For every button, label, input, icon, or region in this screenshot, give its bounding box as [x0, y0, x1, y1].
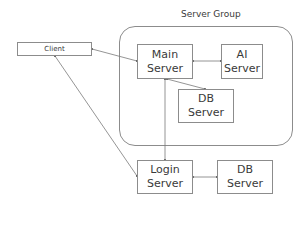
ai-server-label-2: Server	[224, 62, 260, 76]
main-server-node: Main Server	[137, 44, 193, 79]
main-server-label-2: Server	[147, 62, 183, 76]
login-server-label-1: Login	[150, 163, 180, 177]
db-server-login-label-1: DB	[237, 163, 253, 177]
db-server-group-label-2: Server	[188, 106, 224, 120]
client-node: Client	[17, 42, 92, 56]
login-server-node: Login Server	[137, 160, 193, 194]
db-server-login-node: DB Server	[217, 160, 273, 194]
ai-server-label-1: AI	[237, 48, 248, 62]
edge-client-login	[55, 56, 137, 176]
login-server-label-2: Server	[147, 177, 183, 191]
db-server-group-label-1: DB	[198, 92, 214, 106]
db-server-group-node: DB Server	[178, 89, 234, 123]
db-server-login-label-2: Server	[227, 177, 263, 191]
main-server-label-1: Main	[152, 48, 178, 62]
ai-server-node: AI Server	[221, 44, 263, 79]
edge-client-main	[92, 49, 137, 61]
edge-main-db	[167, 79, 205, 89]
client-label: Client	[44, 45, 64, 54]
